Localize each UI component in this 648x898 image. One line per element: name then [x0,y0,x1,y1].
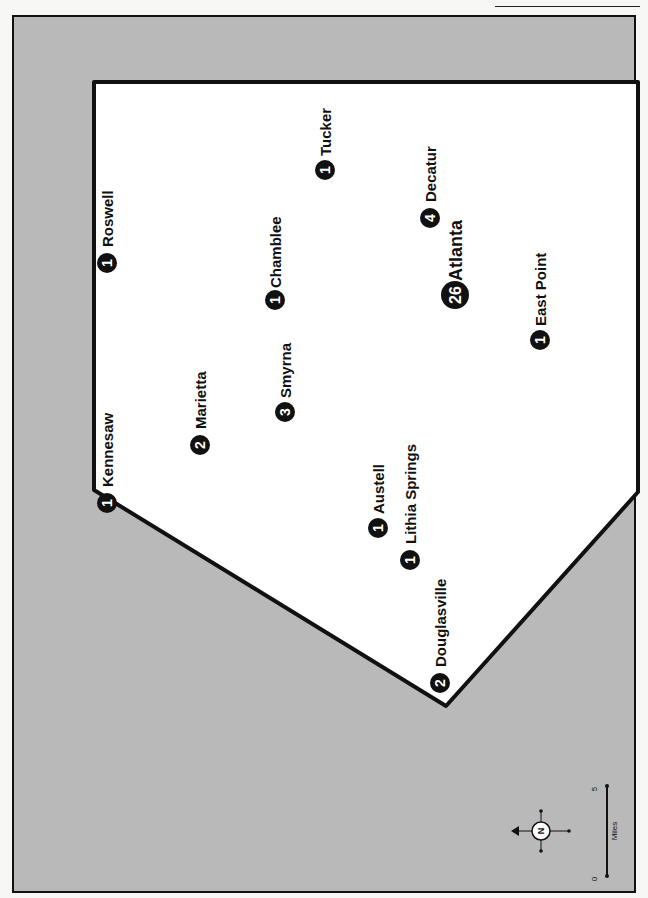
count-value: 4 [422,214,438,222]
city-name: Chamblee [267,216,284,288]
city-east-point: East Point 1 [530,253,550,350]
city-smyrna: Smyrna 3 [275,342,295,422]
count-value: 1 [317,166,333,174]
city-kennesaw: 1 Kennesaw [97,412,117,513]
count-value: 3 [277,408,293,416]
map-canvas: 1 Roswell 1 Kennesaw 2 Marietta Chamblee… [0,0,648,898]
count-value: 1 [99,499,115,507]
count-value: 2 [432,679,448,687]
city-marietta: 2 Marietta [190,371,210,455]
city-atlanta: Atlanta 26 [441,219,469,309]
scale-start-label: 0 [590,876,599,881]
compass-rose: N [511,809,571,853]
city-roswell: 1 Roswell [97,190,117,273]
scale-bar: 5 0 Miles [590,784,619,881]
city-name: Lithia Springs [402,444,419,544]
study-area-region [94,82,638,706]
city-name: Douglasville [432,579,449,667]
city-name: East Point [532,253,549,326]
north-arrow-icon [511,826,519,836]
scale-unit-label: Miles [610,822,619,841]
count-value: 1 [99,259,115,267]
count-value: 1 [370,524,386,532]
city-name: Smyrna [277,342,294,398]
scale-end-label: 5 [590,786,599,791]
count-value: 1 [267,296,283,304]
city-name: Austell [370,464,387,514]
count-value: 1 [402,556,418,564]
city-austell: Austell 1 [368,464,388,538]
compass-north-label: N [536,828,546,835]
city-name: Kennesaw [99,412,116,487]
city-name: Decatur [422,146,439,202]
city-name: Marietta [192,371,209,429]
city-tucker: Tucker 1 [315,108,335,180]
city-name: Atlanta [446,219,466,281]
city-name: Tucker [317,108,334,156]
count-value: 1 [532,336,548,344]
count-value: 26 [447,286,464,304]
count-value: 2 [192,441,208,449]
city-decatur: 4 Decatur [420,146,440,228]
city-chamblee: Chamblee 1 [265,216,285,310]
city-name: Roswell [99,190,116,247]
